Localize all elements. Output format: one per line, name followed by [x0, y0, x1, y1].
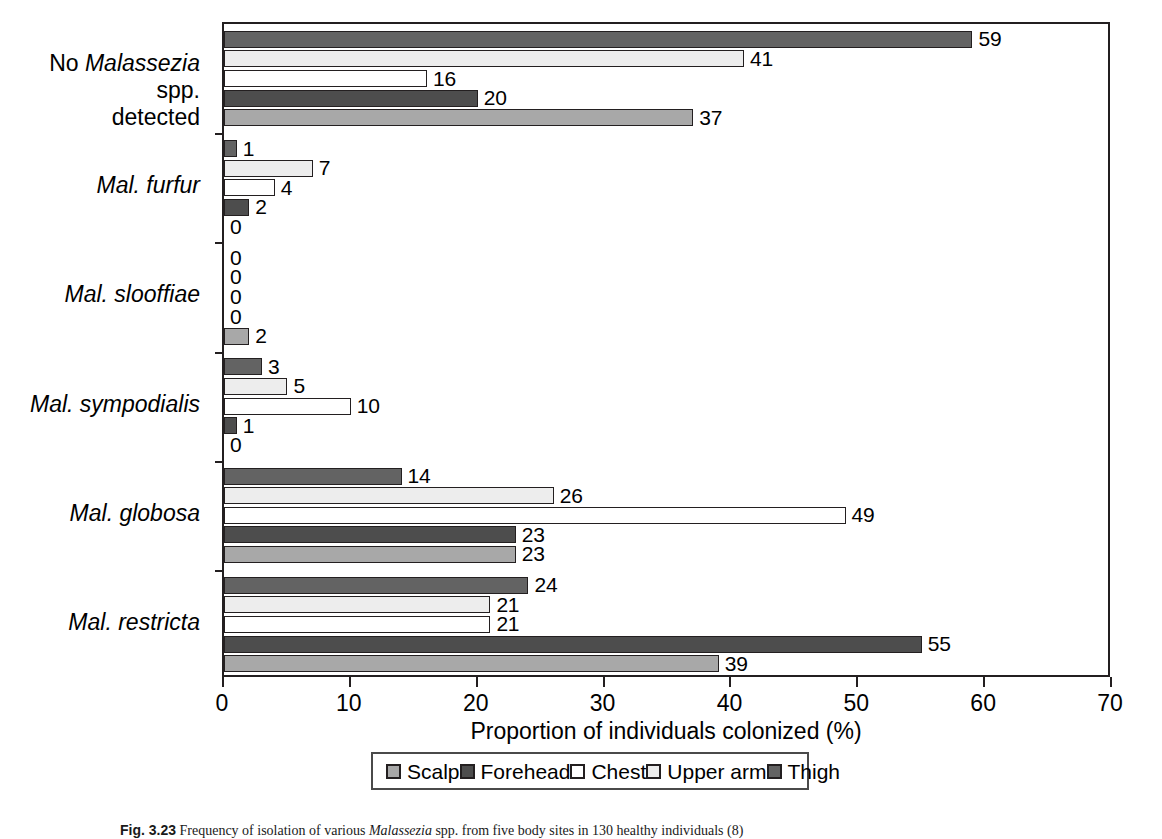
legend-item-upper-arm[interactable]: Upper arm [646, 761, 766, 782]
bar-value-label: 26 [560, 485, 583, 506]
plot-area: 5941162037174200000235101014264923232421… [222, 22, 1110, 677]
bar-value-label: 14 [408, 465, 431, 486]
bar-upper-arm [224, 487, 554, 504]
y-axis-label-3: Mal. sympodialis [0, 391, 214, 418]
legend-label: Forehead [481, 761, 571, 782]
x-axis-tick [603, 677, 605, 687]
legend-item-thigh[interactable]: Thigh [767, 761, 841, 782]
bar-scalp [224, 109, 693, 126]
caption-figure-number: Fig. 3.23 [120, 822, 176, 838]
bar-upper-arm [224, 50, 744, 67]
bar-row: 0 [224, 269, 1112, 286]
x-axis-tick [1110, 677, 1112, 687]
bar-value-label: 37 [699, 107, 722, 128]
y-axis-group-tick [215, 461, 224, 463]
bar-row: 55 [224, 636, 1112, 653]
x-axis-tick [222, 677, 224, 687]
legend-label: Chest [591, 761, 646, 782]
x-axis-tick-label: 50 [843, 690, 869, 716]
bar-row: 49 [224, 507, 1112, 524]
bar-chest [224, 179, 275, 196]
bar-forehead [224, 90, 478, 107]
bar-row: 2 [224, 199, 1112, 216]
bar-row: 0 [224, 308, 1112, 325]
bar-row: 16 [224, 70, 1112, 87]
bar-row: 0 [224, 249, 1112, 266]
bar-row: 2 [224, 328, 1112, 345]
bar-value-label: 23 [522, 544, 545, 565]
bars-layer: 5941162037174200000235101014264923232421… [224, 24, 1108, 675]
bar-row: 0 [224, 288, 1112, 305]
x-axis-tick-label: 70 [1097, 690, 1123, 716]
bar-value-label: 5 [293, 376, 304, 397]
bar-forehead [224, 417, 237, 434]
bar-row: 24 [224, 577, 1112, 594]
y-axis-group-tick [215, 352, 224, 354]
x-axis-tick-label: 40 [717, 690, 743, 716]
bar-thigh [224, 31, 972, 48]
legend-item-scalp[interactable]: Scalp [386, 761, 460, 782]
bar-value-label: 39 [725, 653, 748, 674]
bar-row: 41 [224, 50, 1112, 67]
x-axis-tick [983, 677, 985, 687]
legend-item-chest[interactable]: Chest [570, 761, 646, 782]
bar-value-label: 21 [496, 613, 519, 634]
legend-label: Upper arm [667, 761, 766, 782]
legend-item-forehead[interactable]: Forehead [460, 761, 571, 782]
bar-upper-arm [224, 596, 490, 613]
bar-value-label: 2 [255, 325, 266, 346]
bar-row: 0 [224, 218, 1112, 235]
bar-value-label: 24 [534, 574, 557, 595]
legend-swatch-icon [386, 764, 401, 779]
caption-text: Frequency of isolation of various Malass… [176, 823, 743, 838]
bar-row: 4 [224, 179, 1112, 196]
bar-row: 10 [224, 398, 1112, 415]
bar-row: 39 [224, 655, 1112, 672]
legend: ScalpForeheadChestUpper armThigh [371, 752, 809, 790]
bar-upper-arm [224, 160, 313, 177]
legend-label: Thigh [788, 761, 841, 782]
x-axis-tick-label: 20 [463, 690, 489, 716]
legend-swatch-icon [460, 764, 475, 779]
bar-row: 3 [224, 358, 1112, 375]
legend-swatch-icon [767, 764, 782, 779]
bar-forehead [224, 526, 516, 543]
bar-thigh [224, 140, 237, 157]
legend-swatch-icon [646, 764, 661, 779]
bar-upper-arm [224, 378, 287, 395]
bar-value-label: 3 [268, 356, 279, 377]
legend-swatch-icon [570, 764, 585, 779]
bar-thigh [224, 577, 528, 594]
bar-chest [224, 616, 490, 633]
bar-row: 21 [224, 596, 1112, 613]
bar-scalp [224, 328, 249, 345]
y-axis-label-4: Mal. globosa [0, 500, 214, 527]
y-axis-group-tick [215, 133, 224, 135]
bar-chest [224, 70, 427, 87]
bar-value-label: 4 [281, 177, 292, 198]
x-axis-tick-label: 60 [970, 690, 996, 716]
bar-row: 21 [224, 616, 1112, 633]
bar-forehead [224, 636, 922, 653]
bar-scalp [224, 655, 719, 672]
bar-value-label: 0 [230, 306, 241, 327]
bar-thigh [224, 468, 402, 485]
bar-value-label: 7 [319, 157, 330, 178]
bar-row: 0 [224, 437, 1112, 454]
figure-caption: Fig. 3.23 Frequency of isolation of vari… [120, 822, 1120, 839]
bar-row: 37 [224, 109, 1112, 126]
bar-value-label: 41 [750, 48, 773, 69]
legend-label: Scalp [407, 761, 460, 782]
bar-row: 1 [224, 417, 1112, 434]
x-axis-tick-label: 30 [590, 690, 616, 716]
x-axis-tick-label: 10 [336, 690, 362, 716]
bar-value-label: 16 [433, 68, 456, 89]
x-axis-tick [349, 677, 351, 687]
x-axis-tick [729, 677, 731, 687]
y-axis-label-5: Mal. restricta [0, 609, 214, 636]
y-axis-group-tick [215, 570, 224, 572]
bar-value-label: 0 [230, 216, 241, 237]
bar-row: 26 [224, 487, 1112, 504]
y-axis-group-tick [215, 242, 224, 244]
